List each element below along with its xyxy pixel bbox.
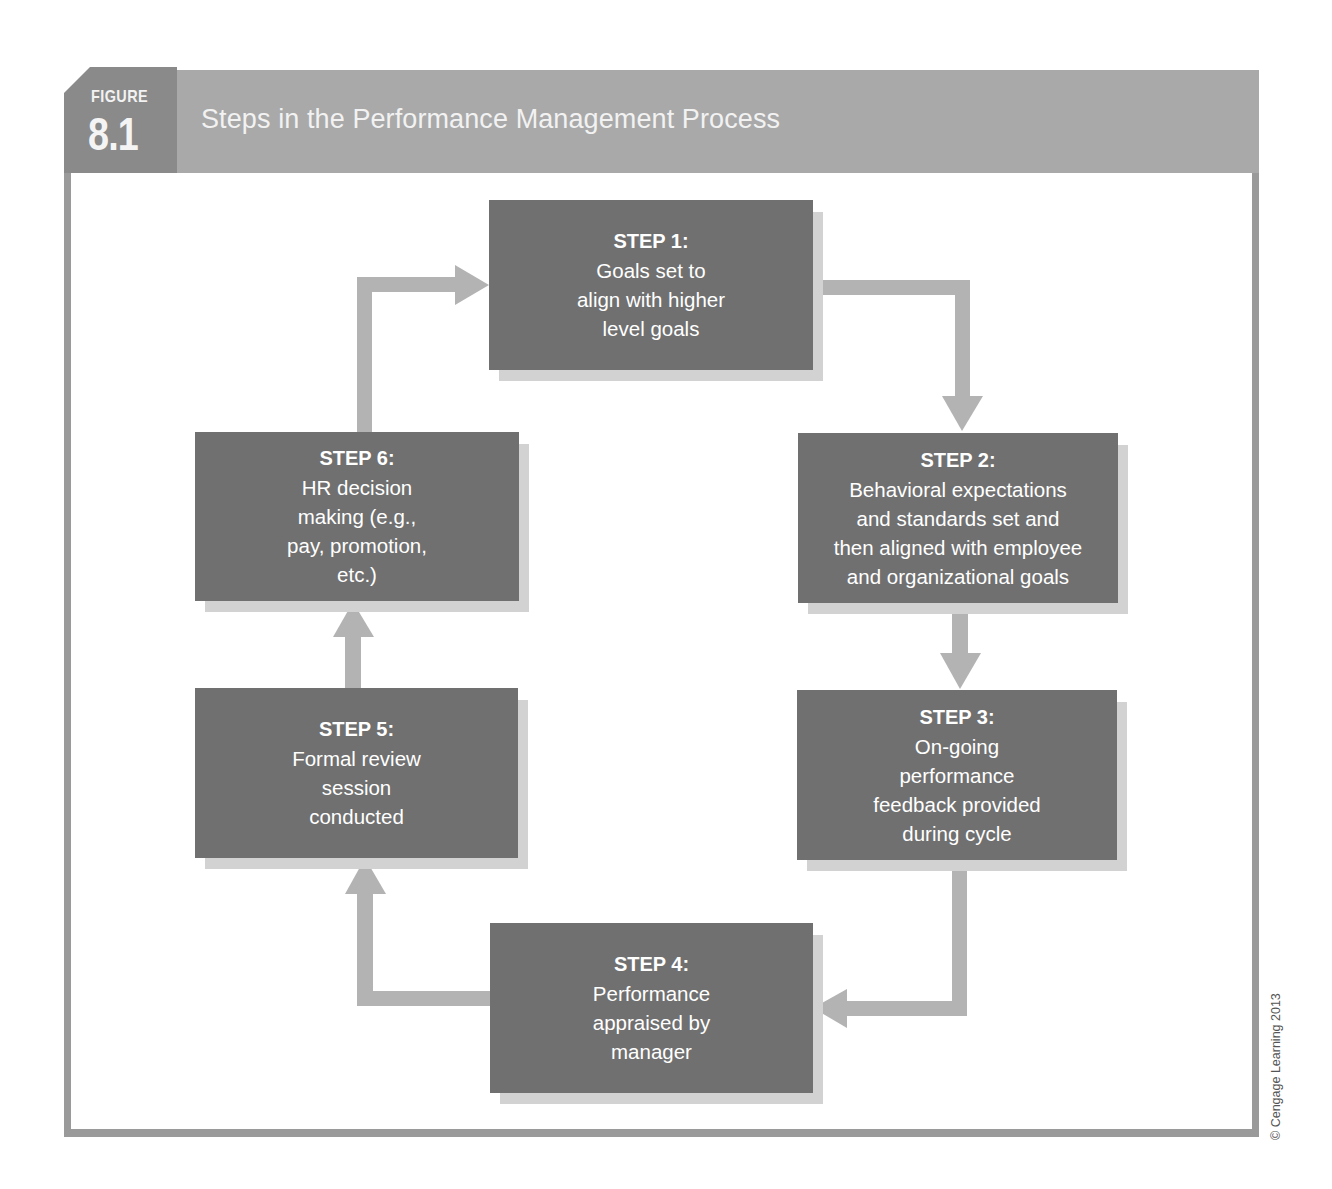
- step-1-box: STEP 1: Goals set to align with higher l…: [489, 200, 813, 370]
- step-4-title: STEP 4:: [614, 950, 689, 979]
- figure-header: Steps in the Performance Management Proc…: [177, 70, 1259, 173]
- step-4-box: STEP 4: Performance appraised by manager: [490, 923, 813, 1093]
- step-5-text: Formal review session conducted: [292, 744, 421, 831]
- step-5-title: STEP 5:: [319, 715, 394, 744]
- step-4-text: Performance appraised by manager: [593, 979, 710, 1066]
- step-2-title: STEP 2:: [920, 446, 995, 475]
- step-2-box: STEP 2: Behavioral expectations and stan…: [798, 433, 1118, 603]
- step-5-box: STEP 5: Formal review session conducted: [195, 688, 518, 858]
- step-6-box: STEP 6: HR decision making (e.g., pay, p…: [195, 432, 519, 601]
- step-3-title: STEP 3:: [919, 703, 994, 732]
- step-6-text: HR decision making (e.g., pay, promotion…: [287, 473, 427, 589]
- copyright-notice: © Cengage Learning 2013: [1269, 993, 1283, 1140]
- step-1-title: STEP 1:: [613, 227, 688, 256]
- step-6-title: STEP 6:: [319, 444, 394, 473]
- step-1-text: Goals set to align with higher level goa…: [577, 256, 725, 343]
- figure-badge: FIGURE 8.1: [64, 67, 177, 173]
- step-3-text: On-going performance feedback provided d…: [873, 732, 1041, 848]
- step-2-text: Behavioral expectations and standards se…: [834, 475, 1082, 591]
- step-3-box: STEP 3: On-going performance feedback pr…: [797, 690, 1117, 860]
- figure-title: Steps in the Performance Management Proc…: [201, 104, 780, 135]
- figure-number: 8.1: [88, 107, 138, 161]
- figure-label: FIGURE: [91, 87, 148, 107]
